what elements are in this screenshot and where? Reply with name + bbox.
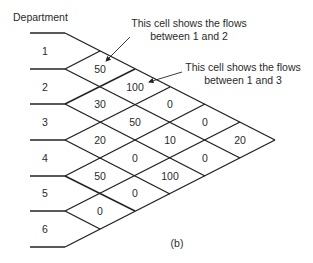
department-label-2: 2 (42, 81, 48, 93)
cell-5-6: 0 (97, 205, 103, 217)
annotation-1-3-line1: This cell shows the flows (185, 61, 301, 73)
relationship-chart: Department 1 2 3 4 5 6 50 (0, 0, 313, 263)
cell-2-3: 30 (94, 98, 106, 110)
cell-1-3: 100 (126, 81, 144, 93)
cell-4-6: 0 (132, 187, 138, 199)
cell-4-5: 50 (94, 170, 106, 182)
cell-3-5: 0 (132, 152, 138, 164)
department-label-3: 3 (42, 116, 48, 128)
annotation-1-2-line1: This cell shows the flows (131, 17, 247, 29)
cell-3-6: 100 (161, 170, 179, 182)
arrow-icon (149, 72, 182, 82)
department-lines (30, 33, 65, 247)
cell-2-5: 10 (164, 134, 176, 146)
annotation-1-2-line2: between 1 and 2 (150, 30, 228, 42)
annotation-1-3: This cell shows the flows between 1 and … (149, 61, 301, 86)
department-header: Department (13, 11, 68, 23)
cell-2-6: 0 (202, 152, 208, 164)
arrow-icon (106, 37, 130, 61)
cell-3-4: 20 (94, 134, 106, 146)
department-label-4: 4 (42, 152, 48, 164)
cell-2-4: 50 (129, 116, 141, 128)
figure-caption: (b) (171, 237, 184, 249)
annotation-1-3-line2: between 1 and 3 (204, 74, 282, 86)
cell-1-4: 0 (167, 98, 173, 110)
department-label-1: 1 (42, 45, 48, 57)
department-label-6: 6 (42, 223, 48, 235)
annotation-1-2: This cell shows the flows between 1 and … (106, 17, 247, 61)
cell-1-2: 50 (94, 63, 106, 75)
department-label-5: 5 (42, 187, 48, 199)
cell-1-6: 20 (234, 134, 246, 146)
cell-1-5: 0 (202, 116, 208, 128)
